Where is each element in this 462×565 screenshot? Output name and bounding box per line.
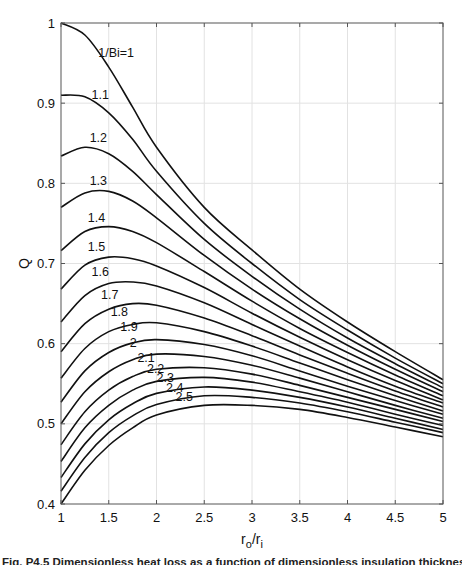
curve-labels: 1/Bi=11.11.21.31.41.51.61.71.81.922.12.2… xyxy=(88,46,193,405)
y-tick-label: 0.8 xyxy=(37,176,55,191)
curve-label: 1.7 xyxy=(101,288,118,302)
x-axis-tick-labels: 11.522.533.544.55 xyxy=(57,510,446,525)
chart: 1/Bi=11.11.21.31.41.51.61.71.81.922.12.2… xyxy=(0,0,462,565)
y-axis-tick-labels: 0.40.50.60.70.80.91 xyxy=(37,16,55,512)
curve-label: 1.1 xyxy=(92,88,109,102)
curve-label: 1.6 xyxy=(92,265,109,279)
x-tick-label: 1.5 xyxy=(100,510,118,525)
x-tick-label: 3 xyxy=(248,510,255,525)
x-tick-label: 1 xyxy=(57,510,64,525)
y-tick-label: 0.7 xyxy=(37,256,55,271)
curve-label: 1/Bi=1 xyxy=(98,46,134,60)
x-tick-label: 4 xyxy=(344,510,351,525)
figure-caption: Fig. P4.5 Dimensionless heat loss as a f… xyxy=(2,555,462,565)
y-tick-label: 0.6 xyxy=(37,336,55,351)
y-tick-label: 0.9 xyxy=(37,96,55,111)
curve-label: 1.8 xyxy=(111,305,128,319)
curve-label: 1.3 xyxy=(90,174,107,188)
y-tick-label: 1 xyxy=(48,16,55,31)
x-axis-title: ro/ri xyxy=(241,531,263,550)
curve-label: 1.2 xyxy=(90,131,107,145)
x-tick-label: 2 xyxy=(153,510,160,525)
x-tick-label: 2.5 xyxy=(195,510,213,525)
y-tick-label: 0.4 xyxy=(37,497,55,512)
curve-label: 2.5 xyxy=(176,390,193,404)
curve-label: 1.4 xyxy=(88,211,105,225)
x-tick-label: 3.5 xyxy=(291,510,309,525)
y-axis-title: Q xyxy=(16,258,32,269)
curve-label: 1.9 xyxy=(120,320,137,334)
curve-label: 1.5 xyxy=(88,240,105,254)
y-tick-label: 0.5 xyxy=(37,416,55,431)
x-tick-label: 5 xyxy=(439,510,446,525)
curve-label: 2 xyxy=(130,336,137,350)
x-tick-label: 4.5 xyxy=(386,510,404,525)
